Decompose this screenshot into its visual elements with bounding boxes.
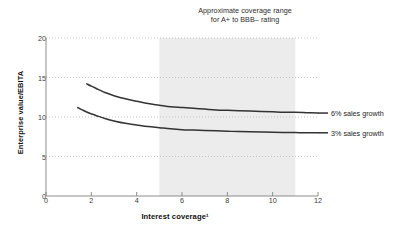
chart-container: Approximate coverage range for A+ to BBB…	[0, 0, 410, 234]
series-label-2: 3% sales growth	[331, 128, 384, 137]
series-label-1: 6% sales growth	[331, 109, 384, 118]
